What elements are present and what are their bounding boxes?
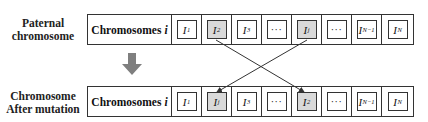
- ellipsis-cell: ···: [262, 15, 292, 44]
- mutated-chromosome: Chromosomesi I1 Ij I3 ··· I2 ··· IN−1 IN: [87, 86, 414, 117]
- ellipsis-cell: ···: [322, 15, 352, 44]
- chromosome-name-cell: Chromosomesi: [88, 87, 172, 116]
- swap-arrow-i2-to-position-j: [216, 40, 304, 92]
- gene-cell-selected: I2: [292, 87, 322, 116]
- gene-cell: I1: [172, 87, 202, 116]
- chromosome-name: Chromosomes: [91, 96, 161, 108]
- label-line1: Chromosome: [0, 90, 86, 103]
- gene-cell-selected: I2: [202, 15, 232, 44]
- label-line2: After mutation: [0, 103, 86, 116]
- chromosome-index: i: [164, 96, 167, 108]
- label-line1: Paternal: [0, 17, 86, 30]
- chromosome-name: Chromosomes: [91, 24, 161, 36]
- gene-cell: IN−1: [352, 87, 382, 116]
- gene-box: I2: [207, 20, 227, 39]
- ellipsis-box: ···: [327, 92, 347, 111]
- swap-arrow-ij-to-position-2: [217, 40, 307, 92]
- gene-cell: IN−1: [352, 15, 382, 44]
- gene-box: IN−1: [357, 92, 377, 111]
- gene-box: I3: [237, 20, 257, 39]
- gene-cell: I3: [232, 15, 262, 44]
- gene-box: I1: [177, 92, 197, 111]
- chromosome-name-cell: Chromosomesi: [88, 15, 172, 44]
- gene-box: I3: [237, 92, 257, 111]
- ellipsis-box: ···: [327, 20, 347, 39]
- paternal-chromosome: Chromosomesi I1 I2 I3 ··· Ij ··· IN−1 IN: [87, 14, 414, 45]
- gene-cell: IN: [382, 87, 413, 116]
- gene-cell-selected: Ij: [202, 87, 232, 116]
- chromosome-index: i: [164, 24, 167, 36]
- gene-box: IN: [388, 20, 408, 39]
- ellipsis-cell: ···: [262, 87, 292, 116]
- label-line2: chromosome: [0, 30, 86, 43]
- mutated-chromosome-label: Chromosome After mutation: [0, 90, 86, 116]
- arrow-down-icon: [122, 53, 142, 76]
- gene-box: Ij: [297, 20, 317, 39]
- gene-box: IN−1: [357, 20, 377, 39]
- gene-box: I2: [297, 92, 317, 111]
- ellipsis-box: ···: [267, 92, 287, 111]
- ellipsis-box: ···: [267, 20, 287, 39]
- ellipsis-cell: ···: [322, 87, 352, 116]
- gene-cell: I1: [172, 15, 202, 44]
- gene-cell: I3: [232, 87, 262, 116]
- gene-box: Ij: [207, 92, 227, 111]
- paternal-chromosome-label: Paternal chromosome: [0, 17, 86, 43]
- gene-cell-selected: Ij: [292, 15, 322, 44]
- gene-box: I1: [177, 20, 197, 39]
- gene-box: IN: [388, 92, 408, 111]
- gene-cell: IN: [382, 15, 413, 44]
